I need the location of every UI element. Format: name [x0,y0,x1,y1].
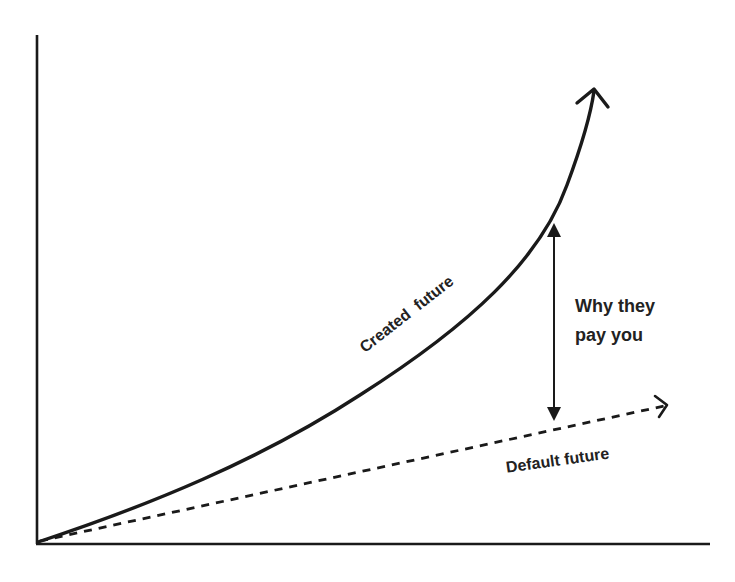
growth-diagram [0,0,735,582]
gap-label-line1: Why they [575,292,695,321]
gap-label-line2: pay you [575,321,695,350]
default-future-line [40,406,664,541]
gap-label: Why they pay you [575,292,695,350]
